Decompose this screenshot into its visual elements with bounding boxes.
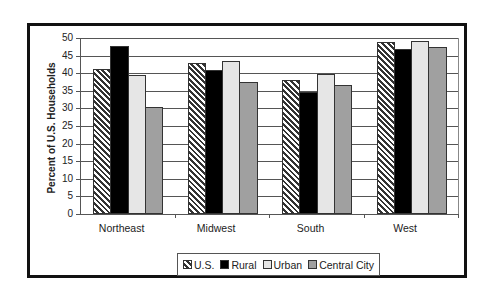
bar-rural-northeast [110, 46, 128, 214]
bar-u-s-west [377, 42, 395, 214]
y-tick-label: 10 [49, 174, 73, 184]
legend-swatch-icon [220, 260, 229, 269]
bar-urban-midwest [222, 61, 240, 214]
legend-label: Central City [319, 259, 374, 271]
x-tick [269, 214, 270, 218]
y-tick-label: 5 [49, 191, 73, 201]
y-tick-label: 45 [49, 51, 73, 61]
x-tick [458, 214, 459, 218]
legend-label: Rural [231, 259, 256, 271]
bar-u-s-northeast [93, 69, 111, 214]
bar-central-city-south [334, 85, 352, 214]
bar-central-city-midwest [239, 82, 257, 214]
bar-urban-west [411, 41, 429, 214]
x-tick [175, 214, 176, 218]
legend-swatch-icon [183, 260, 192, 269]
legend-swatch-icon [308, 260, 317, 269]
y-tick-label: 35 [49, 86, 73, 96]
legend-label: Urban [274, 259, 303, 271]
x-tick [364, 214, 365, 218]
bar-central-city-northeast [145, 107, 163, 214]
bar-central-city-west [428, 47, 446, 214]
category-label: Midwest [169, 222, 263, 234]
category-label: Northeast [75, 222, 169, 234]
bar-urban-south [317, 74, 335, 214]
legend-label: U.S. [194, 259, 214, 271]
legend-item: Urban [263, 259, 303, 271]
category-label: South [264, 222, 358, 234]
bar-u-s-south [282, 80, 300, 214]
y-tick-label: 50 [49, 33, 73, 43]
bar-rural-south [299, 92, 317, 214]
bar-urban-northeast [128, 75, 146, 214]
plot-area [80, 38, 459, 214]
y-tick-label: 40 [49, 68, 73, 78]
y-tick-label: 15 [49, 156, 73, 166]
legend-item: Rural [220, 259, 256, 271]
y-tick-label: 30 [49, 103, 73, 113]
y-tick-label: 20 [49, 139, 73, 149]
bar-u-s-midwest [188, 63, 206, 214]
bar-rural-west [394, 49, 412, 214]
legend-item: Central City [308, 259, 374, 271]
bar-rural-midwest [205, 70, 223, 214]
legend-swatch-icon [263, 260, 272, 269]
legend-item: U.S. [183, 259, 214, 271]
y-tick-label: 0 [49, 209, 73, 219]
legend: U.S.RuralUrbanCentral City [177, 253, 380, 276]
gridline [80, 38, 458, 39]
y-axis-line [80, 38, 81, 215]
y-tick-label: 25 [49, 121, 73, 131]
category-label: West [358, 222, 452, 234]
